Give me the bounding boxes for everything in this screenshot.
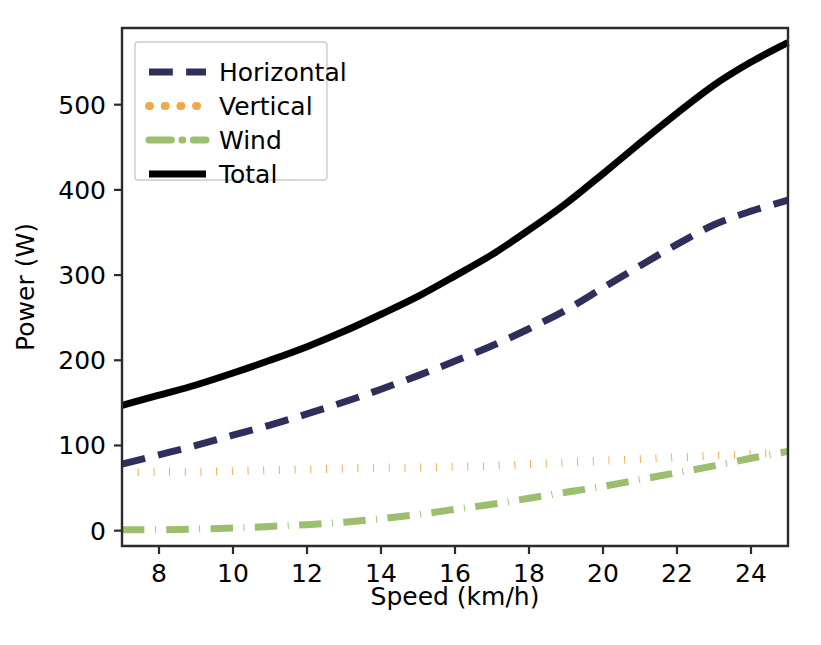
y-tick-label: 500 (58, 91, 106, 120)
y-axis-ticks: 0100200300400500 (58, 91, 122, 546)
x-tick-label: 10 (217, 559, 249, 588)
x-tick-label: 20 (587, 559, 619, 588)
x-tick-label: 22 (661, 559, 693, 588)
y-tick-label: 200 (58, 346, 106, 375)
chart-legend: HorizontalVerticalWindTotal (135, 42, 347, 189)
y-tick-label: 300 (58, 261, 106, 290)
series-line-horizontal (122, 200, 788, 464)
legend-label-horizontal: Horizontal (219, 58, 347, 87)
legend-label-wind: Wind (219, 126, 282, 155)
y-tick-label: 100 (58, 431, 106, 460)
legend-label-total: Total (218, 160, 277, 189)
series-line-wind (122, 451, 788, 529)
y-axis-label: Power (W) (11, 223, 40, 351)
y-tick-label: 0 (90, 517, 106, 546)
legend-label-vertical: Vertical (219, 92, 313, 121)
x-tick-label: 24 (735, 559, 767, 588)
series-line-vertical (122, 452, 788, 472)
x-tick-label: 8 (151, 559, 167, 588)
power-vs-speed-line-chart: 81012141618202224 0100200300400500 Speed… (0, 0, 821, 645)
x-tick-label: 12 (291, 559, 323, 588)
y-tick-label: 400 (58, 176, 106, 205)
matplotlib-figure: 81012141618202224 0100200300400500 Speed… (0, 0, 821, 645)
x-axis-label: Speed (km/h) (371, 582, 540, 611)
